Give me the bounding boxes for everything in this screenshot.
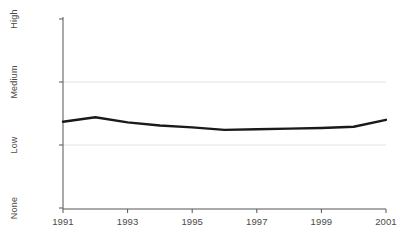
y-axis-tick-label: Low xyxy=(10,136,19,153)
y-axis-tick-label: High xyxy=(10,9,19,28)
gridlines xyxy=(63,82,386,145)
y-axis-ticks xyxy=(59,19,63,208)
y-axis-tick-label: Medium xyxy=(10,65,19,98)
x-axis-tick-label: 1991 xyxy=(33,217,93,227)
x-axis-ticks xyxy=(63,209,386,213)
x-axis-tick-label: 1993 xyxy=(98,217,158,227)
axis-lines xyxy=(63,17,386,209)
y-axis-tick-label: None xyxy=(10,197,19,219)
x-axis-tick-label: 1995 xyxy=(162,217,222,227)
x-axis-tick-label: 1997 xyxy=(227,217,287,227)
data-series-group xyxy=(63,117,386,130)
x-axis-tick-label: 1999 xyxy=(291,217,351,227)
x-axis-tick-label: 2001 xyxy=(356,217,401,227)
data-line xyxy=(63,117,386,130)
